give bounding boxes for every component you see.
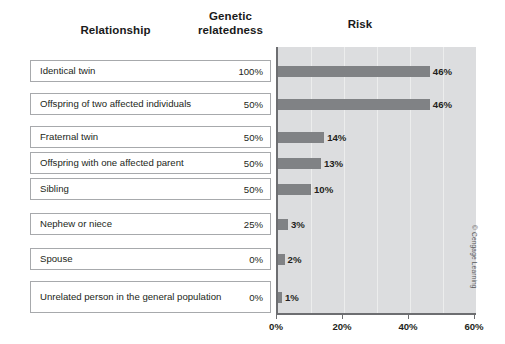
- risk-bar-value-label: 14%: [327, 132, 346, 143]
- chart-plot-area: [276, 47, 476, 315]
- chart-gridline: [443, 47, 444, 313]
- risk-bar: [278, 184, 311, 195]
- x-axis-tick-label: 40%: [388, 321, 428, 332]
- chart-gridline: [410, 47, 411, 313]
- risk-bar: [278, 158, 321, 169]
- risk-bar-value-label: 10%: [314, 184, 333, 195]
- risk-bar: [278, 219, 288, 230]
- risk-bar-value-label: 46%: [433, 99, 452, 110]
- risk-bar-value-label: 1%: [285, 292, 299, 303]
- risk-bar-value-label: 13%: [324, 158, 343, 169]
- x-axis-tick: [408, 315, 409, 319]
- risk-bar: [278, 99, 430, 110]
- risk-bar: [278, 292, 282, 303]
- x-axis-tick-label: 0%: [256, 321, 296, 332]
- risk-bar-chart: 46%46%14%13%10%3%2%1%0%20%40%60%: [0, 0, 505, 344]
- x-axis-tick: [342, 315, 343, 319]
- copyright-notice: © Cengage Learning: [471, 225, 478, 289]
- risk-bar-value-label: 3%: [291, 219, 305, 230]
- risk-bar-value-label: 2%: [288, 254, 302, 265]
- x-axis-tick-label: 60%: [454, 321, 494, 332]
- risk-bar-value-label: 46%: [433, 66, 452, 77]
- chart-gridline: [344, 47, 345, 313]
- chart-gridline: [377, 47, 378, 313]
- risk-bar: [278, 66, 430, 77]
- risk-bar: [278, 132, 324, 143]
- chart-gridline: [311, 47, 312, 313]
- x-axis-tick: [474, 315, 475, 319]
- risk-bar: [278, 254, 285, 265]
- x-axis-tick: [276, 315, 277, 319]
- x-axis-tick-label: 20%: [322, 321, 362, 332]
